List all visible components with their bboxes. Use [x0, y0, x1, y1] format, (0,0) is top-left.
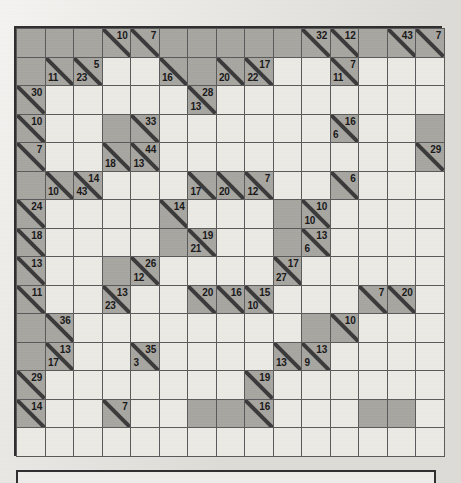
kakuro-entry-cell[interactable] — [302, 257, 331, 286]
kakuro-entry-cell[interactable] — [416, 228, 445, 257]
kakuro-entry-cell[interactable] — [102, 371, 131, 400]
kakuro-entry-cell[interactable] — [273, 171, 302, 200]
kakuro-entry-cell[interactable] — [188, 143, 217, 172]
kakuro-entry-cell[interactable] — [273, 285, 302, 314]
kakuro-entry-cell[interactable] — [387, 371, 416, 400]
kakuro-entry-cell[interactable] — [245, 143, 274, 172]
kakuro-entry-cell[interactable] — [45, 143, 74, 172]
kakuro-entry-cell[interactable] — [188, 257, 217, 286]
kakuro-entry-cell[interactable] — [273, 399, 302, 428]
kakuro-entry-cell[interactable] — [159, 257, 188, 286]
kakuro-entry-cell[interactable] — [273, 143, 302, 172]
kakuro-entry-cell[interactable] — [387, 342, 416, 371]
kakuro-entry-cell[interactable] — [216, 86, 245, 115]
kakuro-entry-cell[interactable] — [216, 114, 245, 143]
kakuro-entry-cell[interactable] — [131, 200, 160, 229]
kakuro-entry-cell[interactable] — [45, 200, 74, 229]
kakuro-entry-cell[interactable] — [45, 257, 74, 286]
kakuro-entry-cell[interactable] — [330, 257, 359, 286]
kakuro-entry-cell[interactable] — [45, 86, 74, 115]
kakuro-entry-cell[interactable] — [216, 342, 245, 371]
kakuro-entry-cell[interactable] — [330, 399, 359, 428]
kakuro-entry-cell[interactable] — [359, 371, 388, 400]
kakuro-entry-cell[interactable] — [216, 143, 245, 172]
kakuro-entry-cell[interactable] — [387, 143, 416, 172]
kakuro-entry-cell[interactable] — [359, 314, 388, 343]
kakuro-entry-cell[interactable] — [302, 57, 331, 86]
kakuro-entry-cell[interactable] — [188, 200, 217, 229]
kakuro-entry-cell[interactable] — [131, 314, 160, 343]
kakuro-entry-cell[interactable] — [74, 371, 103, 400]
kakuro-entry-cell[interactable] — [74, 285, 103, 314]
kakuro-entry-cell[interactable] — [131, 285, 160, 314]
kakuro-entry-cell[interactable] — [45, 371, 74, 400]
kakuro-entry-cell[interactable] — [159, 371, 188, 400]
kakuro-entry-cell[interactable] — [102, 57, 131, 86]
kakuro-entry-cell[interactable] — [416, 200, 445, 229]
kakuro-entry-cell[interactable] — [387, 114, 416, 143]
kakuro-entry-cell[interactable] — [188, 371, 217, 400]
kakuro-entry-cell[interactable] — [102, 314, 131, 343]
kakuro-entry-cell[interactable] — [387, 257, 416, 286]
kakuro-entry-cell[interactable] — [131, 228, 160, 257]
kakuro-entry-cell[interactable] — [416, 342, 445, 371]
kakuro-entry-cell[interactable] — [245, 257, 274, 286]
kakuro-entry-cell[interactable] — [159, 86, 188, 115]
kakuro-entry-cell[interactable] — [159, 171, 188, 200]
kakuro-entry-cell[interactable] — [216, 314, 245, 343]
kakuro-entry-cell[interactable] — [302, 285, 331, 314]
kakuro-entry-cell[interactable] — [302, 171, 331, 200]
kakuro-entry-cell[interactable] — [330, 342, 359, 371]
kakuro-entry-cell[interactable] — [359, 257, 388, 286]
kakuro-entry-cell[interactable] — [330, 371, 359, 400]
kakuro-entry-cell[interactable] — [188, 342, 217, 371]
kakuro-entry-cell[interactable] — [416, 257, 445, 286]
kakuro-entry-cell[interactable] — [273, 314, 302, 343]
kakuro-entry-cell[interactable] — [131, 399, 160, 428]
kakuro-entry-cell[interactable] — [74, 257, 103, 286]
kakuro-entry-cell[interactable] — [74, 342, 103, 371]
kakuro-entry-cell[interactable] — [245, 314, 274, 343]
kakuro-entry-cell[interactable] — [74, 143, 103, 172]
kakuro-entry-cell[interactable] — [245, 86, 274, 115]
kakuro-entry-cell[interactable] — [102, 228, 131, 257]
kakuro-entry-cell[interactable] — [387, 86, 416, 115]
kakuro-entry-cell[interactable] — [416, 314, 445, 343]
kakuro-entry-cell[interactable] — [359, 171, 388, 200]
kakuro-grid-body[interactable]: 1073212437115231620172271130281310331667… — [17, 29, 445, 457]
kakuro-entry-cell[interactable] — [216, 228, 245, 257]
kakuro-entry-cell[interactable] — [273, 114, 302, 143]
kakuro-entry-cell[interactable] — [102, 342, 131, 371]
kakuro-entry-cell[interactable] — [159, 342, 188, 371]
kakuro-entry-cell[interactable] — [302, 86, 331, 115]
kakuro-entry-cell[interactable] — [416, 171, 445, 200]
kakuro-entry-cell[interactable] — [359, 143, 388, 172]
kakuro-entry-cell[interactable] — [273, 371, 302, 400]
kakuro-entry-cell[interactable] — [45, 399, 74, 428]
kakuro-entry-cell[interactable] — [159, 399, 188, 428]
kakuro-entry-cell[interactable] — [330, 143, 359, 172]
kakuro-entry-cell[interactable] — [359, 114, 388, 143]
kakuro-entry-cell[interactable] — [131, 171, 160, 200]
kakuro-entry-cell[interactable] — [387, 228, 416, 257]
kakuro-entry-cell[interactable] — [387, 314, 416, 343]
kakuro-entry-cell[interactable] — [188, 114, 217, 143]
kakuro-entry-cell[interactable] — [74, 314, 103, 343]
kakuro-entry-cell[interactable] — [131, 86, 160, 115]
kakuro-entry-cell[interactable] — [416, 371, 445, 400]
kakuro-entry-cell[interactable] — [188, 314, 217, 343]
kakuro-entry-cell[interactable] — [159, 143, 188, 172]
kakuro-entry-cell[interactable] — [245, 114, 274, 143]
kakuro-entry-cell[interactable] — [102, 200, 131, 229]
kakuro-entry-cell[interactable] — [74, 114, 103, 143]
kakuro-entry-cell[interactable] — [387, 57, 416, 86]
kakuro-entry-cell[interactable] — [273, 57, 302, 86]
kakuro-table[interactable]: 1073212437115231620172271130281310331667… — [16, 28, 445, 457]
kakuro-entry-cell[interactable] — [302, 371, 331, 400]
kakuro-entry-cell[interactable] — [74, 86, 103, 115]
kakuro-entry-cell[interactable] — [302, 114, 331, 143]
kakuro-entry-cell[interactable] — [416, 86, 445, 115]
kakuro-entry-cell[interactable] — [159, 114, 188, 143]
kakuro-entry-cell[interactable] — [416, 285, 445, 314]
kakuro-entry-cell[interactable] — [416, 399, 445, 428]
